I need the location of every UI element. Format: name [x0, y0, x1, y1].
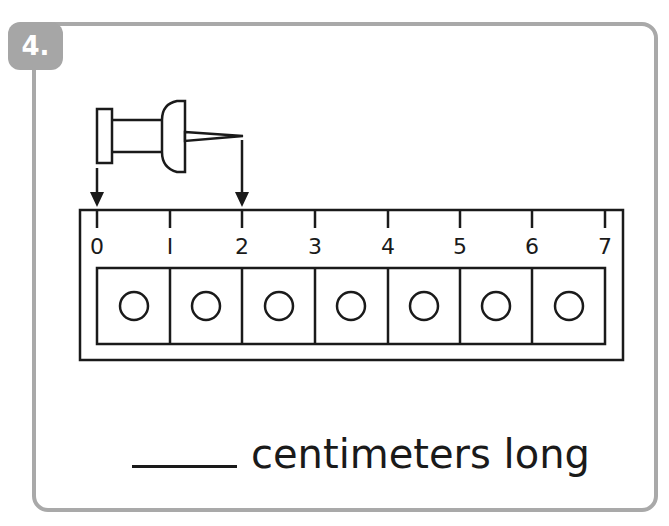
tick-label-6: 6 — [525, 234, 539, 259]
tick-label-4: 4 — [381, 234, 395, 259]
start-arrow-icon — [90, 168, 104, 207]
tick-label-5: 5 — [453, 234, 467, 259]
ruler-outline — [80, 210, 623, 360]
tick-label-0: 0 — [90, 234, 104, 259]
tick-label-7: 7 — [598, 234, 612, 259]
tick-label-3: 3 — [308, 234, 322, 259]
answer-suffix: centimeters long — [251, 431, 590, 477]
answer-line: centimeters long — [132, 425, 590, 477]
end-arrow-icon — [235, 140, 249, 207]
answer-blank[interactable] — [132, 425, 237, 468]
tick-label-2: 2 — [235, 234, 249, 259]
push-pin-icon — [97, 101, 243, 172]
tick-label-1: I — [167, 234, 174, 259]
ruler-cells — [97, 268, 605, 344]
ruler-ticks — [97, 210, 605, 228]
